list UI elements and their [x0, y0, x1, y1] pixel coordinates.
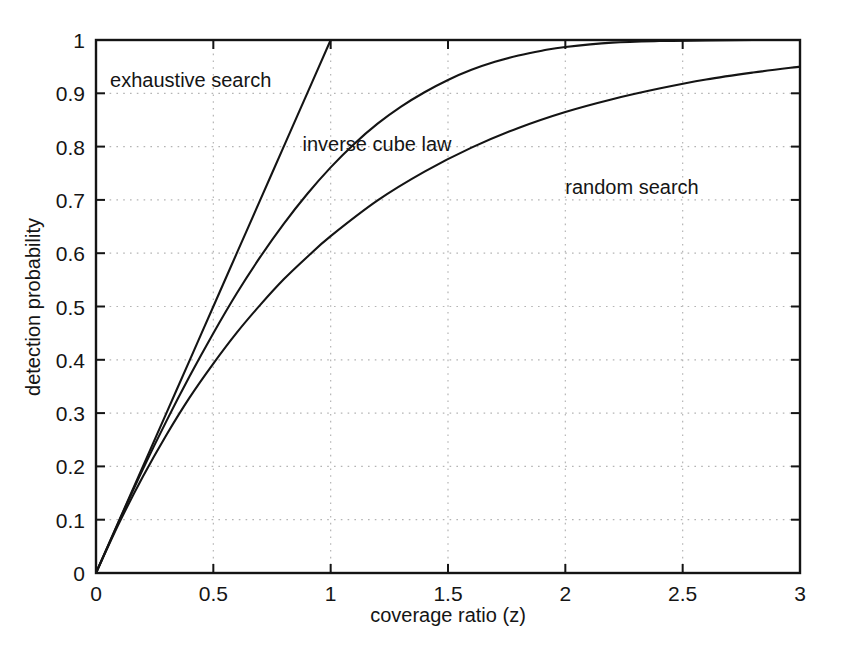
- y-tick-label: 1: [73, 29, 85, 52]
- curve-label-exhaustive-search: exhaustive search: [110, 69, 271, 91]
- x-tick-label: 0.5: [199, 582, 228, 605]
- y-tick-label: 0.6: [56, 242, 85, 265]
- y-tick-label: 0.5: [56, 296, 85, 319]
- figure-container: 00.511.522.53 00.10.20.30.40.50.60.70.80…: [0, 0, 845, 655]
- y-tick-label: 0: [73, 562, 85, 585]
- x-tick-label: 2.5: [668, 582, 697, 605]
- y-tick-label: 0.7: [56, 189, 85, 212]
- x-tick-label: 1.5: [433, 582, 462, 605]
- x-axis-title: coverage ratio (z): [370, 604, 526, 626]
- x-tick-label: 0: [90, 582, 102, 605]
- detection-probability-chart: 00.511.522.53 00.10.20.30.40.50.60.70.80…: [0, 0, 845, 655]
- curve-annotations: exhaustive searchinverse cube lawrandom …: [110, 69, 699, 198]
- y-tick-label: 0.3: [56, 402, 85, 425]
- x-tick-labels: 00.511.522.53: [90, 582, 806, 605]
- y-tick-labels: 00.10.20.30.40.50.60.70.80.91: [56, 29, 86, 585]
- y-tick-label: 0.1: [56, 509, 85, 532]
- curve-label-random-search: random search: [565, 176, 698, 198]
- y-tick-label: 0.9: [56, 82, 85, 105]
- y-tick-label: 0.2: [56, 455, 85, 478]
- curve-label-inverse-cube-law: inverse cube law: [303, 133, 453, 155]
- y-axis-title: detection probability: [22, 218, 44, 396]
- grid-lines: [96, 40, 800, 573]
- y-tick-label: 0.4: [56, 349, 86, 372]
- x-tick-label: 3: [794, 582, 806, 605]
- x-tick-label: 1: [325, 582, 337, 605]
- x-tick-label: 2: [559, 582, 571, 605]
- y-tick-label: 0.8: [56, 136, 85, 159]
